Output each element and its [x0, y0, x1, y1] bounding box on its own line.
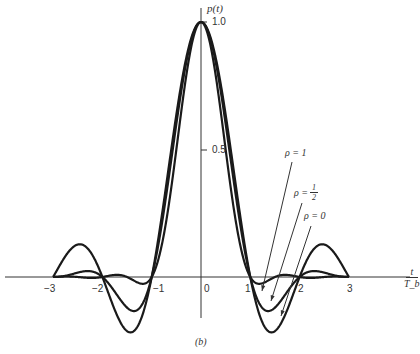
annotation-rho-1: ρ = 1 — [285, 147, 307, 158]
raised-cosine-plot — [0, 0, 420, 354]
fraction-num: 1 — [312, 183, 316, 192]
x-axis-numerator: t — [410, 266, 413, 277]
x-tick-label-0: 0 — [204, 283, 210, 294]
arrow-line — [281, 226, 311, 316]
x-axis-label: t T_b — [404, 266, 420, 289]
arrowhead-icon — [271, 295, 275, 301]
x-tick-label-m2: −2 — [92, 283, 103, 294]
x-tick-label-2: 2 — [298, 283, 304, 294]
figure-caption: (b) — [195, 336, 207, 347]
fraction-one-half: 1 2 — [310, 183, 318, 202]
arrow-line — [262, 162, 292, 291]
y-axis-label: p(t) — [207, 2, 223, 14]
y-tick-label-05: 0.5 — [212, 144, 226, 155]
x-axis-denominator: T_b — [404, 278, 420, 289]
x-tick-label-3: 3 — [347, 283, 353, 294]
y-tick-label-1: 1.0 — [212, 16, 226, 27]
annotation-rho-half-prefix: ρ = — [294, 187, 308, 198]
x-tick-label-m1: −1 — [153, 283, 164, 294]
annotation-rho-half: ρ = 1 2 — [294, 183, 318, 202]
annotation-rho-0: ρ = 0 — [304, 210, 326, 221]
x-tick-label-1: 1 — [245, 283, 251, 294]
x-tick-label-m3: −3 — [44, 283, 55, 294]
fraction-den: 2 — [312, 193, 316, 202]
